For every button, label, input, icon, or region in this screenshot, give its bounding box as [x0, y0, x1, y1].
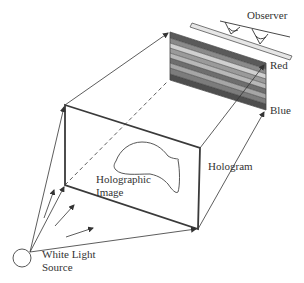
holographic-image-label-2: Image: [96, 186, 124, 198]
circle-icon: [13, 249, 31, 267]
holographic-image-label-1: Holographic: [96, 173, 151, 185]
observer-label: Observer: [247, 9, 288, 21]
hologram-diagram: Observer Red Blue Hologra: [0, 0, 304, 283]
red-label: Red: [270, 59, 288, 71]
source-label-2: Source: [42, 261, 73, 273]
hologram-frame: [65, 105, 200, 229]
hologram-label: Hologram: [208, 160, 253, 172]
blue-label: Blue: [270, 104, 291, 116]
source-label-1: White Light: [42, 248, 95, 260]
